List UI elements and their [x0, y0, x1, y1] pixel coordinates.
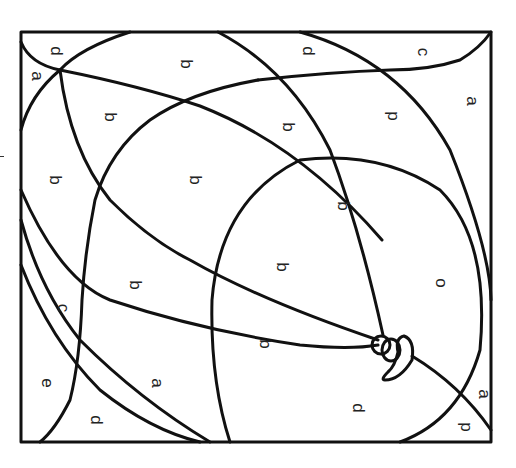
region-label: a [149, 378, 166, 387]
curve-left-bottom-2 [21, 190, 378, 442]
region-label: a [476, 389, 493, 398]
region-label: b [274, 262, 291, 271]
arc-top-middle [218, 32, 383, 335]
region-label: b [187, 175, 204, 184]
knot-ring-3 [383, 336, 413, 380]
region-label: b [47, 175, 64, 184]
region-label: e [39, 378, 56, 387]
region-label: d [350, 403, 367, 412]
region-label: d [300, 46, 317, 55]
region-label: p [458, 422, 475, 431]
region-label: a [29, 71, 46, 80]
region-label: c [415, 48, 432, 57]
curve-node-right [60, 70, 382, 240]
region-label: b [102, 112, 119, 121]
region-label: c [55, 304, 72, 313]
region-label: b [280, 122, 297, 131]
region-label: b [257, 339, 274, 348]
region-label: o [433, 278, 450, 287]
region-label: d [88, 415, 105, 424]
region-label: b [127, 280, 144, 289]
region-label: a [464, 96, 481, 105]
coloring-page-drawing [0, 0, 516, 468]
region-label: b [335, 201, 352, 210]
region-label: d [48, 46, 65, 55]
region-label: b [178, 59, 195, 68]
curve-left-bottom [21, 220, 210, 442]
edge-tick-mark [0, 156, 4, 157]
region-label: p [385, 111, 402, 120]
wavy-band [258, 32, 491, 80]
